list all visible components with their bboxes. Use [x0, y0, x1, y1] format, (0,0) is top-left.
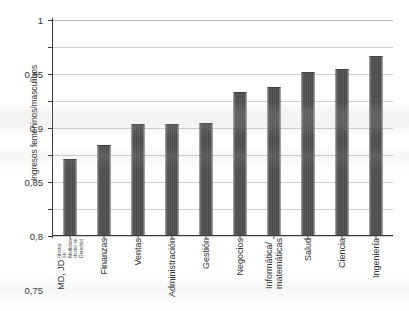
x-axis-label: Gestión	[201, 238, 211, 269]
y-axis-tick-mark: 0,6	[48, 236, 53, 237]
bar[interactable]	[234, 92, 247, 235]
bar-slot	[189, 20, 223, 235]
x-axis-label-text: Finanzas	[99, 238, 109, 275]
y-axis-tick-label: 0,85	[25, 177, 44, 188]
x-axis-label-text: Negocios	[235, 238, 245, 276]
x-axis-label-subtitle: (doctor en Medicina, doctor en Derecho)	[56, 238, 84, 258]
bar[interactable]	[302, 72, 315, 235]
bar-slot	[53, 20, 87, 235]
x-axis-label: Ciencia	[337, 238, 347, 268]
bar-slot	[257, 20, 291, 235]
bar[interactable]	[132, 124, 145, 235]
bar-slot	[155, 20, 189, 235]
bar-series	[53, 20, 393, 235]
x-axis-label: Salud	[303, 238, 313, 261]
x-axis-label: Administración	[167, 238, 177, 297]
plot-area: 10,950,90,850,80,750,70,650,6	[52, 20, 392, 236]
x-axis-label-text: Gestión	[201, 238, 211, 269]
bar-slot	[121, 20, 155, 235]
bar-slot	[325, 20, 359, 235]
x-axis-label-text: Salud	[303, 238, 313, 261]
y-axis-tick-label: 0,9	[30, 123, 43, 134]
x-axis-labels: MD, JD(doctor en Medicina, doctor en Der…	[53, 238, 393, 311]
y-axis-tick-label: 1	[38, 15, 43, 26]
bar-chart: Ingresos femeninos/masculinos 10,950,90,…	[0, 0, 409, 311]
y-axis-tick-label: 0,75	[25, 285, 44, 296]
bar[interactable]	[370, 56, 383, 235]
x-axis-label: Finanzas	[99, 238, 109, 275]
bar-slot	[359, 20, 393, 235]
bar[interactable]	[336, 69, 349, 235]
y-axis-tick-label: 0,8	[30, 231, 43, 242]
x-axis-label-text: Administración	[167, 238, 177, 297]
x-axis-label: Negocios	[235, 238, 245, 276]
x-axis-label-text: Informática/ matemáticas	[265, 238, 284, 289]
bar[interactable]	[64, 159, 77, 235]
bar[interactable]	[200, 123, 213, 235]
y-axis-tick-label: 0,95	[25, 69, 44, 80]
x-axis-label-text: Ventas	[133, 238, 143, 266]
x-axis-label: MD, JD(doctor en Medicina, doctor en Der…	[56, 238, 84, 290]
x-axis-label-text: MD, JD	[56, 260, 66, 290]
x-axis-label-text: Ciencia	[337, 238, 347, 268]
bar[interactable]	[166, 124, 179, 235]
bar[interactable]	[98, 145, 111, 235]
bar-slot	[87, 20, 121, 235]
x-axis-label-text: Ingeniería	[371, 238, 381, 278]
x-axis-label: Ingeniería	[371, 238, 381, 278]
x-axis-label: Ventas	[133, 238, 143, 266]
bar[interactable]	[268, 87, 281, 236]
x-axis-label: Informática/ matemáticas	[265, 238, 284, 289]
bar-slot	[291, 20, 325, 235]
bar-slot	[223, 20, 257, 235]
